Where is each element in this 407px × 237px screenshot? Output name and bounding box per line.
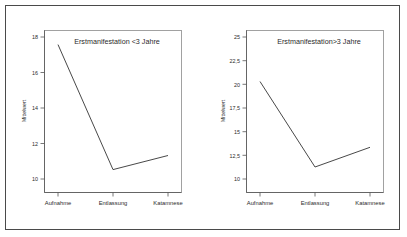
y-tick-label: 16 — [32, 70, 38, 76]
y-tick-label: 12 — [32, 141, 38, 147]
y-tick-label: 18 — [32, 34, 38, 40]
y-tick-label: 17,5 — [230, 105, 241, 111]
y-axis-title-left: Mittelwert — [21, 99, 27, 122]
chart-panel-right: 25 22,5 20 17,5 15 12,5 10 Au — [203, 0, 406, 237]
x-category-label-katamnese: Katamnese — [153, 200, 182, 206]
y-tick-label: 15 — [234, 129, 240, 135]
y-tick-label: 14 — [32, 105, 38, 111]
y-axis-title-right: Mittelwert — [220, 99, 226, 122]
y-ticks-left: 18 16 14 12 10 — [32, 34, 45, 182]
plot-area-left — [45, 31, 182, 193]
x-ticks-right — [260, 193, 370, 197]
figure-root: 18 16 14 12 10 Aufnahme Entlassung Katam… — [0, 0, 407, 237]
panel-title-left: Erstmanifestation <3 Jahre — [74, 37, 160, 46]
y-tick-label: 22,5 — [230, 58, 241, 64]
y-ticks-right: 25 22,5 20 17,5 15 12,5 10 — [230, 34, 247, 182]
x-category-label-aufnahme: Aufnahme — [247, 200, 273, 206]
y-tick-label: 12,5 — [230, 153, 241, 159]
x-category-label-entlassung: Entlassung — [99, 200, 128, 206]
y-tick-label: 10 — [234, 176, 240, 182]
x-category-label-entlassung: Entlassung — [301, 200, 330, 206]
y-tick-label: 10 — [32, 176, 38, 182]
plot-area-right — [247, 31, 384, 193]
x-category-label-katamnese: Katamnese — [355, 200, 384, 206]
y-tick-label: 20 — [234, 82, 240, 88]
chart-panel-left: 18 16 14 12 10 Aufnahme Entlassung Katam… — [0, 0, 203, 237]
x-category-label-aufnahme: Aufnahme — [45, 200, 71, 206]
panel-title-right: Erstmanifestation>3 Jahre — [277, 37, 361, 46]
x-ticks-left — [58, 193, 168, 197]
y-tick-label: 25 — [234, 34, 240, 40]
